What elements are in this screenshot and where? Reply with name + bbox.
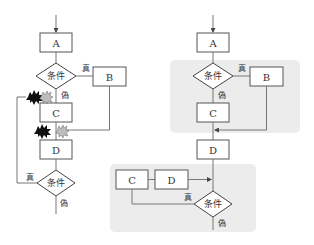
- flowchart-canvas: A 条件 真 偽 B C D 条件: [0, 0, 314, 245]
- box-label: B: [106, 72, 113, 83]
- process-box-b: B: [250, 67, 283, 86]
- condition-label: 条件: [204, 198, 222, 209]
- false-label: 偽: [60, 198, 68, 208]
- true-label: 真: [82, 63, 90, 73]
- box-label: D: [52, 145, 60, 156]
- loop-connector: [17, 97, 37, 183]
- left-flowchart: A 条件 真 偽 B C D 条件: [17, 15, 126, 214]
- process-box-d: D: [197, 140, 229, 159]
- box-label: B: [263, 72, 270, 83]
- right-flowchart: A 条件 真 偽 B C D C: [110, 15, 300, 232]
- box-label: A: [208, 38, 217, 49]
- false-label: 偽: [218, 218, 226, 228]
- false-label: 偽: [61, 90, 69, 100]
- decision-1: 条件: [36, 63, 76, 89]
- process-box-d: D: [40, 140, 72, 159]
- collision-gray-icon: [40, 91, 53, 104]
- box-label: C: [128, 175, 136, 186]
- decision-2: 条件: [37, 170, 75, 196]
- loop-process-box-d: D: [155, 170, 188, 189]
- condition-label: 条件: [47, 177, 65, 188]
- collision-gray-icon: [56, 125, 69, 138]
- true-label: 真: [26, 172, 34, 182]
- loop-process-box-c: C: [116, 170, 148, 189]
- box-label: C: [52, 108, 60, 119]
- false-label: 偽: [218, 90, 226, 100]
- box-label: A: [51, 38, 60, 49]
- process-box-b: B: [93, 67, 126, 86]
- box-label: D: [167, 175, 175, 186]
- condition-label: 条件: [204, 70, 222, 81]
- collision-black-icon: [34, 124, 51, 139]
- box-label: D: [209, 145, 217, 156]
- condition-label: 条件: [47, 70, 65, 81]
- process-box-c: C: [197, 103, 229, 122]
- process-box-c: C: [40, 103, 72, 122]
- box-label: C: [209, 108, 217, 119]
- true-label: 真: [238, 63, 246, 73]
- process-box-a: A: [40, 33, 72, 52]
- true-label: 真: [184, 192, 192, 202]
- process-box-a: A: [197, 33, 229, 52]
